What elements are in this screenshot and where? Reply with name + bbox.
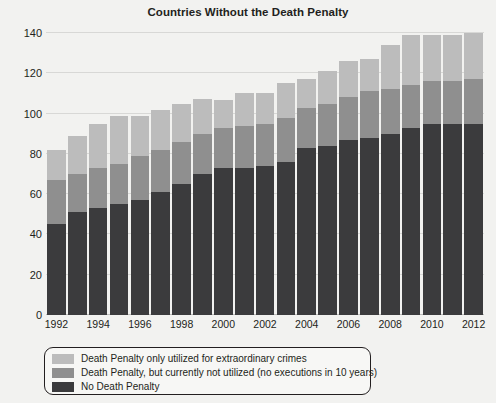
y-axis: 020406080100120140 [0, 0, 42, 403]
bar-group [235, 33, 254, 315]
x-tick-label [235, 318, 254, 336]
bar-segment [151, 192, 170, 315]
x-tick-label: 2008 [381, 318, 400, 336]
x-tick-label: 2000 [214, 318, 233, 336]
bar-segment [360, 138, 379, 315]
x-tick-text: 1994 [86, 318, 109, 330]
bar-group [423, 33, 442, 315]
x-tick-label [360, 318, 379, 336]
bar-segment [193, 99, 212, 133]
bar-segment [464, 79, 483, 123]
bar-group [318, 33, 337, 315]
x-tick-text: 2008 [378, 318, 401, 330]
x-tick-label: 1992 [47, 318, 66, 336]
bar-segment [214, 128, 233, 168]
bar-segment [443, 124, 462, 315]
x-tick-text: 2004 [295, 318, 318, 330]
bar-segment [464, 124, 483, 315]
bar-segment [443, 35, 462, 81]
bar-group [68, 33, 87, 315]
x-tick-label [277, 318, 296, 336]
bar-group [172, 33, 191, 315]
bar-segment [464, 33, 483, 79]
x-tick-label: 2010 [423, 318, 442, 336]
bar-segment [402, 35, 421, 85]
bar-segment [423, 81, 442, 123]
legend-swatch [52, 368, 74, 378]
y-tick-label-0: 0 [2, 309, 42, 321]
plot-area [46, 33, 484, 315]
legend-label: Death Penalty, but currently not utilize… [81, 366, 377, 379]
bar-segment [277, 162, 296, 315]
bar-segment [68, 174, 87, 212]
x-tick-text: 2010 [420, 318, 443, 330]
bar-group [360, 33, 379, 315]
bar-group [464, 33, 483, 315]
legend-label: Death Penalty only utilized for extraord… [81, 352, 307, 365]
x-tick-label [151, 318, 170, 336]
bar-segment [381, 45, 400, 89]
bar-group [47, 33, 66, 315]
bar-segment [47, 224, 66, 315]
bar-segment [172, 104, 191, 142]
bar-segment [193, 134, 212, 174]
y-tick-label-140: 140 [2, 27, 42, 39]
bar-segment [110, 164, 129, 204]
bar-segment [131, 116, 150, 156]
bar-group [89, 33, 108, 315]
legend-item: Death Penalty only utilized for extraord… [52, 352, 364, 365]
bar-segment [339, 97, 358, 139]
bar-segment [318, 146, 337, 315]
bar-segment [423, 124, 442, 315]
x-tick-label: 2002 [256, 318, 275, 336]
bar-segment [172, 184, 191, 315]
y-tick-label-40: 40 [2, 228, 42, 240]
bar-segment [423, 35, 442, 81]
bar-segment [318, 104, 337, 146]
bar-group [443, 33, 462, 315]
bar-segment [235, 93, 254, 125]
bar-segment [297, 148, 316, 315]
bar-segment [214, 168, 233, 315]
legend-item: Death Penalty, but currently not utilize… [52, 366, 364, 379]
bar-group [297, 33, 316, 315]
x-tick-text: 2012 [462, 318, 485, 330]
legend-swatch [52, 382, 74, 392]
bar-segment [360, 91, 379, 137]
chart-legend: Death Penalty only utilized for extraord… [44, 347, 371, 395]
bar-segment [277, 83, 296, 117]
y-tick-label-120: 120 [2, 67, 42, 79]
x-tick-text: 1992 [45, 318, 68, 330]
bars-layer [46, 33, 484, 315]
bar-group [151, 33, 170, 315]
x-tick-text: 2002 [253, 318, 276, 330]
bar-segment [214, 100, 233, 128]
legend-label: No Death Penalty [81, 380, 159, 393]
x-tick-label [402, 318, 421, 336]
x-tick-label [318, 318, 337, 336]
x-tick-label [110, 318, 129, 336]
bar-segment [360, 59, 379, 91]
x-tick-text: 1996 [128, 318, 151, 330]
bar-segment [339, 140, 358, 315]
bar-segment [318, 71, 337, 103]
bar-segment [151, 110, 170, 150]
bar-segment [68, 136, 87, 174]
y-tick-label-60: 60 [2, 188, 42, 200]
x-tick-label [193, 318, 212, 336]
bar-segment [277, 118, 296, 162]
bar-segment [256, 124, 275, 166]
bar-segment [193, 174, 212, 315]
bar-group [277, 33, 296, 315]
bar-segment [235, 126, 254, 168]
x-tick-label: 1994 [89, 318, 108, 336]
x-tick-text: 2000 [212, 318, 235, 330]
bar-group [131, 33, 150, 315]
bar-segment [381, 89, 400, 133]
legend-swatch [52, 354, 74, 364]
bar-segment [339, 61, 358, 97]
bar-segment [47, 180, 66, 224]
bar-group [193, 33, 212, 315]
bar-segment [89, 124, 108, 168]
bar-segment [443, 81, 462, 123]
